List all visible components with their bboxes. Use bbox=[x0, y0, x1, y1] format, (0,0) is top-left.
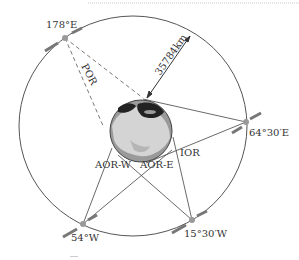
region-label-por: POR bbox=[79, 62, 99, 87]
earth-globe bbox=[110, 100, 172, 162]
region-label-aore: AOR-E bbox=[139, 159, 174, 170]
region-label-aorw: AOR-W bbox=[94, 159, 132, 170]
satellite-coverage-diagram: 35784km 178°E 64°30′E 54°W 15°30′W POR I… bbox=[0, 0, 299, 260]
bottom-artifact bbox=[70, 256, 78, 257]
region-label-ior: IOR bbox=[180, 147, 200, 158]
satellite-178e bbox=[45, 28, 82, 51]
satellite-label-64-30e: 64°30′E bbox=[249, 127, 289, 138]
satellite-label-15-30w: 15°30′W bbox=[184, 228, 228, 239]
satellite-label-178e: 178°E bbox=[46, 19, 77, 30]
satellite-label-54w: 54°W bbox=[71, 232, 100, 243]
distance-label: 35784km bbox=[153, 32, 189, 78]
